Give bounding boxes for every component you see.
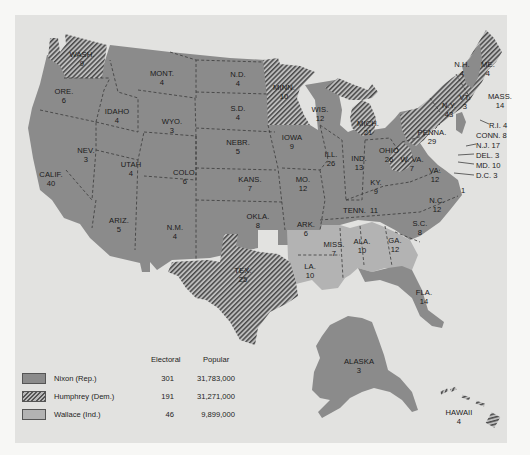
label-la: LA.10	[304, 262, 316, 280]
label-mo: MO.12	[296, 175, 311, 193]
label-mont: MONT.4	[150, 69, 174, 87]
label-idaho: IDAHO4	[105, 107, 130, 125]
label-ala: ALA.10	[354, 237, 371, 255]
callout-conn: CONN. 8	[476, 131, 507, 140]
label-ky: KY.9	[370, 178, 382, 196]
label-nd: N.D.4	[230, 70, 246, 88]
nixon-swatch	[22, 373, 46, 384]
legend-electoral: 46	[144, 410, 174, 419]
label-ohio: OHIO26	[379, 146, 399, 164]
label-ny: N.Y.43	[442, 101, 456, 119]
label-nev: NEV.3	[77, 146, 94, 164]
label-me: ME.4	[481, 60, 495, 78]
legend-header-popular: Popular	[203, 355, 229, 364]
label-hawaii: HAWAII4	[445, 408, 472, 426]
humphrey-swatch	[22, 391, 46, 402]
callout-del: DEL. 3	[476, 151, 499, 160]
label-nm: N.M.4	[167, 223, 183, 241]
label-wyo: WYO.3	[162, 117, 183, 135]
label-utah: UTAH4	[121, 160, 142, 178]
label-fla: FLA.14	[416, 288, 432, 306]
legend-header-electoral: Electoral	[151, 355, 181, 364]
legend: Electoral Popular Nixon (Rep.) 301 31,78…	[22, 355, 282, 435]
legend-candidate: Nixon (Rep.)	[54, 374, 97, 383]
label-ore: ORE.6	[55, 87, 74, 105]
label-vt: VT.3	[459, 93, 470, 111]
label-tenn: TENN. 11	[343, 206, 378, 215]
legend-candidate: Humphrey (Dem.)	[54, 392, 114, 401]
callout-nj: N.J. 17	[476, 141, 500, 150]
legend-electoral: 191	[144, 392, 174, 401]
state-ne-block	[400, 30, 502, 146]
label-ga: GA.12	[388, 236, 401, 254]
label-ill: ILL.26	[324, 150, 337, 168]
label-alaska: ALASKA3	[344, 357, 374, 375]
label-sc: S.C.8	[412, 219, 427, 237]
legend-row-nixon: Nixon (Rep.) 301 31,783,000	[22, 373, 282, 387]
callout-dc: D.C. 3	[476, 171, 498, 180]
label-sd: S.D.4	[230, 104, 245, 122]
label-penna: PENNA.29	[418, 128, 447, 146]
legend-row-humphrey: Humphrey (Dem.) 191 31,271,000	[22, 391, 282, 405]
label-wis: WIS.12	[312, 105, 329, 123]
label-tex: TEX.25	[234, 266, 251, 284]
label-iowa: IOWA9	[282, 133, 302, 151]
label-nebr: NEBR.5	[226, 138, 250, 156]
legend-popular: 31,271,000	[182, 392, 235, 401]
state-nj	[456, 112, 466, 134]
label-colo: COLO.6	[173, 168, 197, 186]
label-minn: MINN.10	[273, 83, 295, 101]
callout-md: MD. 10	[476, 161, 500, 170]
label-calif: CALIF.40	[39, 170, 62, 188]
label-va: VA.12	[429, 166, 441, 184]
label-mich: MICH.21	[357, 119, 379, 137]
label-okla: OKLA.8	[247, 212, 270, 230]
label-kans: KANS.7	[238, 175, 261, 193]
legend-row-wallace: Wallace (Ind.) 46 9,899,000	[22, 409, 282, 423]
legend-popular: 31,783,000	[182, 374, 235, 383]
wallace-swatch	[22, 409, 46, 420]
legend-candidate: Wallace (Ind.)	[54, 410, 101, 419]
label-ariz: ARIZ.5	[109, 216, 129, 234]
label-ind: IND.13	[351, 154, 367, 172]
callout-ri: R.I. 4	[489, 121, 507, 130]
legend-popular: 9,899,000	[182, 410, 235, 419]
label-wash: WASH.9	[69, 50, 94, 68]
label-nh: N.H.4	[454, 60, 470, 78]
legend-electoral: 301	[144, 374, 174, 383]
nc-faithless-marker: 1	[461, 186, 465, 195]
label-nc: N.C.12	[429, 196, 445, 214]
label-w-va: W. VA.7	[400, 155, 423, 173]
label-mass: MASS.14	[488, 92, 512, 110]
label-miss: MISS.7	[323, 240, 344, 258]
label-ark: ARK.6	[297, 220, 315, 238]
